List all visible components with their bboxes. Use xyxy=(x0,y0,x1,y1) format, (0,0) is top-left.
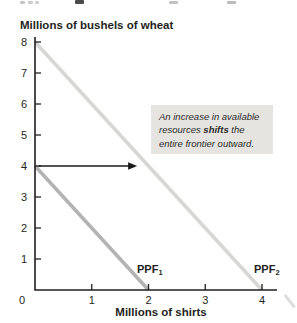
x-tick-label: 3 xyxy=(202,294,208,306)
x-axis-title: Millions of shirts xyxy=(91,306,231,318)
y-tick-label: 8 xyxy=(21,36,27,48)
x-tick-label: 2 xyxy=(145,294,151,306)
ppf2-label-subscript: 2 xyxy=(275,268,279,277)
ppf2-line-label: PPF2 xyxy=(254,263,280,277)
y-tick-label: 6 xyxy=(21,98,27,110)
y-tick-label: 2 xyxy=(21,222,27,234)
ppf1-label-base: PPF xyxy=(137,263,158,275)
y-tick-label: 7 xyxy=(21,67,27,79)
x-tick-label: 1 xyxy=(89,294,95,306)
y-tick-label: 4 xyxy=(21,160,27,172)
ppf2-label-base: PPF xyxy=(254,263,275,275)
axes xyxy=(35,37,277,290)
annotation-callout: An increase in available resources shift… xyxy=(151,105,273,154)
y-tick-label: 1 xyxy=(21,253,27,265)
y-tick-label: 3 xyxy=(21,191,27,203)
annotation-text-bold: shifts xyxy=(203,124,228,135)
ppf-figure: Millions of bushels of wheat 12345678012… xyxy=(0,0,297,323)
shift-arrow-head xyxy=(128,162,137,170)
x-tick-label: 0 xyxy=(19,294,25,306)
ppf1-label-subscript: 1 xyxy=(158,268,162,277)
x-tick-label: 4 xyxy=(259,294,265,306)
line-PPF1 xyxy=(35,166,149,290)
y-tick-label: 5 xyxy=(21,129,27,141)
ppf1-line-label: PPF1 xyxy=(137,263,163,277)
